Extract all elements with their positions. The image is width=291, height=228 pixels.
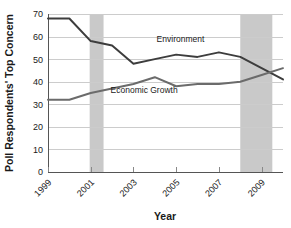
annotation-environment: Environment — [157, 34, 205, 44]
y-tick-label-10: 10 — [33, 145, 43, 155]
annotation-economic-growth: Economic Growth — [111, 85, 178, 95]
x-axis-title: Year — [154, 210, 176, 222]
y-axis-title: Poll Respondents' Top Concern — [3, 14, 15, 172]
y-tick-label-70: 70 — [33, 9, 43, 19]
y-tick-label-20: 20 — [33, 122, 43, 132]
poll-concern-line-chart: 010203040506070 199920012003200520072009… — [0, 0, 291, 228]
chart-container: 010203040506070 199920012003200520072009… — [0, 0, 291, 228]
y-tick-label-50: 50 — [33, 55, 43, 65]
y-tick-label-30: 30 — [33, 100, 43, 110]
y-tick-label-40: 40 — [33, 77, 43, 87]
y-tick-label-0: 0 — [38, 167, 43, 177]
y-tick-label-60: 60 — [33, 32, 43, 42]
